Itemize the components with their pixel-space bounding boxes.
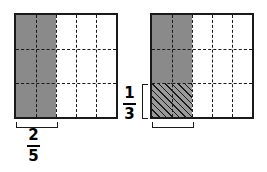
fraction-figure: 2 5 2 5 <box>0 0 267 172</box>
right-fraction-1-3-numerator: 1 <box>123 86 135 102</box>
left-gridline-v-4 <box>96 15 97 117</box>
left-fraction-2-5-label: 2 5 <box>27 128 40 164</box>
right-gridline-v-1 <box>172 15 173 117</box>
right-gridline-v-4 <box>232 15 233 117</box>
left-gridline-v-2 <box>56 15 57 117</box>
left-area-model-square <box>14 13 118 119</box>
right-gridline-v-2 <box>192 15 193 117</box>
left-fraction-numerator: 2 <box>27 128 39 144</box>
left-model-panel: 2 5 <box>0 0 133 172</box>
left-gridline-v-3 <box>76 15 77 117</box>
right-bracket-1-3 <box>142 84 148 119</box>
right-gridline-h-1 <box>152 49 252 50</box>
right-model-panel: 2 5 1 3 <box>133 0 266 172</box>
right-fraction-1-3-label: 1 3 <box>123 86 136 122</box>
right-area-model-square <box>150 13 254 119</box>
left-gridline-v-1 <box>36 15 37 117</box>
left-shading-layer <box>16 15 116 117</box>
left-gridline-h-2 <box>16 83 116 84</box>
right-bracket-2-5 <box>152 122 194 128</box>
left-gridline-h-1 <box>16 49 116 50</box>
right-shading-layer <box>152 15 252 117</box>
right-fraction-1-3-denominator: 3 <box>123 106 135 122</box>
right-gridline-h-2 <box>152 83 252 84</box>
right-gridline-v-3 <box>212 15 213 117</box>
left-fraction-denominator: 5 <box>27 148 39 164</box>
